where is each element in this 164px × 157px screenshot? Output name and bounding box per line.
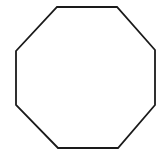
octagon-figure — [0, 0, 164, 157]
figure-canvas — [0, 0, 164, 157]
octagon-outline — [16, 7, 155, 148]
